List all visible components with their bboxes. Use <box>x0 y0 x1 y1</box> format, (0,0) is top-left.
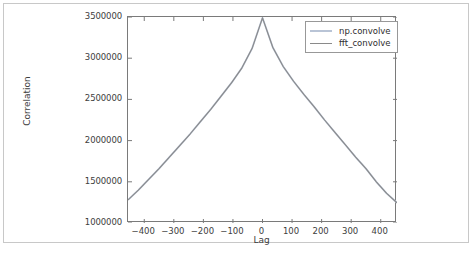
legend-item[interactable]: fft_convolve <box>310 37 391 49</box>
legend-item[interactable]: np.convolve <box>310 25 391 37</box>
y-tick-label: 1500000 <box>85 176 122 186</box>
legend-line-swatch <box>310 43 332 44</box>
y-tick-label: 3000000 <box>85 52 122 62</box>
legend-line-swatch <box>310 30 332 32</box>
legend[interactable]: np.convolvefft_convolve <box>305 21 398 53</box>
y-axis-label: Correlation <box>22 56 32 146</box>
plot-area: np.convolvefft_convolve <box>127 16 396 222</box>
y-tick-label: 2500000 <box>85 93 122 103</box>
legend-label: np.convolve <box>339 26 391 36</box>
x-axis-label: Lag <box>127 235 396 245</box>
y-tick-label: 3500000 <box>85 11 122 21</box>
y-tick-label: 2000000 <box>85 135 122 145</box>
y-tick-label: 1000000 <box>85 217 122 227</box>
figure-frame: 1000000150000020000002500000300000035000… <box>3 3 469 243</box>
legend-label: fft_convolve <box>339 38 391 48</box>
